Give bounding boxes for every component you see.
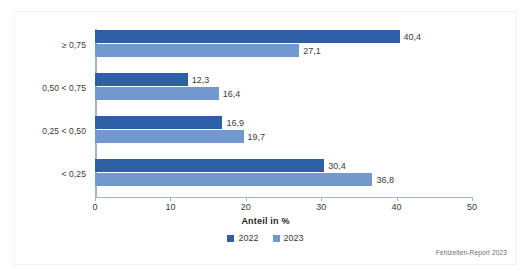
x-tick bbox=[472, 197, 473, 201]
bar-fill-2023 bbox=[95, 87, 219, 100]
x-tick bbox=[246, 197, 247, 201]
category-label: 0,50 < 0,75 bbox=[42, 83, 86, 93]
x-tick-label: 10 bbox=[165, 202, 175, 212]
chart-figure: ≥ 0,75 40,4 27,1 0,50 < 0,75 12,3 16,4 bbox=[0, 0, 531, 274]
x-tick-label: 30 bbox=[316, 202, 326, 212]
bar-group: 0,50 < 0,75 12,3 16,4 bbox=[95, 73, 472, 102]
bar-fill-2023 bbox=[95, 130, 244, 143]
bar-fill-2023 bbox=[95, 44, 299, 57]
bar-value-2022: 12,3 bbox=[192, 75, 210, 85]
x-tick bbox=[321, 197, 322, 201]
bar-value-2023: 16,4 bbox=[223, 89, 241, 99]
bar-2022: 16,9 bbox=[95, 116, 222, 129]
chart-legend: 2022 2023 bbox=[0, 233, 531, 243]
bar-2023: 16,4 bbox=[95, 87, 219, 100]
legend-label: 2023 bbox=[284, 233, 304, 243]
legend-swatch-icon bbox=[273, 235, 280, 242]
bar-value-2023: 27,1 bbox=[303, 46, 321, 56]
bar-fill-2022 bbox=[95, 116, 222, 129]
bar-2023: 19,7 bbox=[95, 130, 244, 143]
bar-fill-2022 bbox=[95, 159, 324, 172]
plot-area: ≥ 0,75 40,4 27,1 0,50 < 0,75 12,3 16,4 bbox=[95, 30, 472, 197]
bar-2023: 36,8 bbox=[95, 173, 372, 186]
x-tick-label: 40 bbox=[392, 202, 402, 212]
bar-fill-2022 bbox=[95, 30, 400, 43]
bar-group: < 0,25 30,4 36,8 bbox=[95, 159, 472, 188]
bar-value-2022: 16,9 bbox=[226, 118, 244, 128]
legend-label: 2022 bbox=[238, 233, 258, 243]
x-tick bbox=[170, 197, 171, 201]
bar-value-2023: 36,8 bbox=[376, 175, 394, 185]
legend-swatch-icon bbox=[227, 235, 234, 242]
x-tick bbox=[397, 197, 398, 201]
bar-fill-2022 bbox=[95, 73, 188, 86]
bar-2023: 27,1 bbox=[95, 44, 299, 57]
x-axis-title: Anteil in % bbox=[0, 216, 531, 226]
bar-value-2022: 40,4 bbox=[404, 32, 422, 42]
bar-value-2022: 30,4 bbox=[328, 161, 346, 171]
category-label: 0,25 < 0,50 bbox=[42, 126, 86, 136]
bar-value-2023: 19,7 bbox=[248, 132, 266, 142]
legend-item-2022[interactable]: 2022 bbox=[227, 233, 258, 243]
bar-group: ≥ 0,75 40,4 27,1 bbox=[95, 30, 472, 59]
x-tick-label: 0 bbox=[92, 202, 97, 212]
legend-item-2023[interactable]: 2023 bbox=[273, 233, 304, 243]
x-tick bbox=[95, 197, 96, 201]
source-caption: Fehlzeiten-Report 2023 bbox=[436, 249, 507, 256]
bar-fill-2023 bbox=[95, 173, 372, 186]
category-label: < 0,25 bbox=[62, 169, 86, 179]
x-tick-label: 50 bbox=[467, 202, 477, 212]
x-tick-label: 20 bbox=[241, 202, 251, 212]
bar-2022: 40,4 bbox=[95, 30, 400, 43]
bar-2022: 12,3 bbox=[95, 73, 188, 86]
bar-2022: 30,4 bbox=[95, 159, 324, 172]
category-label: ≥ 0,75 bbox=[62, 40, 86, 50]
x-axis-line bbox=[95, 197, 473, 198]
bar-group: 0,25 < 0,50 16,9 19,7 bbox=[95, 116, 472, 145]
